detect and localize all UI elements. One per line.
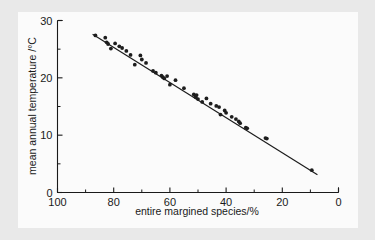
data-point — [238, 121, 242, 125]
axis-spines — [58, 21, 339, 193]
y-tick-label: 30 — [40, 15, 52, 27]
x-axis-title: entire margined species/% — [135, 205, 259, 217]
tick-labels-group: 1008060402000102030 — [40, 15, 341, 208]
data-point — [94, 34, 98, 38]
data-point — [209, 102, 213, 106]
fit-line-group — [93, 34, 318, 174]
data-point — [138, 54, 142, 58]
data-point — [154, 71, 158, 75]
data-point — [109, 47, 113, 51]
data-point — [245, 126, 249, 130]
data-point — [120, 46, 124, 50]
data-point — [133, 63, 137, 67]
data-point — [106, 42, 110, 46]
data-point — [200, 100, 204, 104]
data-point — [140, 58, 144, 62]
data-point — [219, 113, 223, 117]
data-point — [174, 78, 178, 82]
data-point — [217, 105, 221, 109]
axes-group — [58, 21, 339, 193]
y-axis-title: mean annual temperature /°C — [26, 37, 38, 175]
figure-container: 1008060402000102030 entire margined spec… — [0, 0, 375, 240]
y-tick-label: 20 — [40, 72, 52, 84]
data-point — [124, 49, 128, 53]
regression-line — [93, 34, 318, 174]
y-tick-label: 10 — [40, 129, 52, 141]
data-point — [230, 115, 234, 119]
data-point — [144, 61, 148, 65]
x-tick-label: 20 — [276, 196, 288, 208]
data-point — [129, 53, 133, 57]
data-point — [103, 36, 107, 40]
data-point — [165, 74, 169, 78]
data-point — [182, 86, 186, 90]
data-point — [224, 111, 228, 115]
data-point — [265, 137, 269, 141]
data-point — [195, 93, 199, 97]
data-point — [168, 83, 172, 87]
data-point — [196, 97, 200, 101]
scatter-chart: 1008060402000102030 entire margined spec… — [0, 0, 375, 240]
data-point — [113, 42, 117, 46]
data-point — [310, 168, 314, 172]
y-tick-label: 0 — [46, 187, 52, 199]
x-tick-label: 0 — [335, 196, 341, 208]
data-point — [205, 97, 209, 101]
x-tick-label: 80 — [108, 196, 120, 208]
